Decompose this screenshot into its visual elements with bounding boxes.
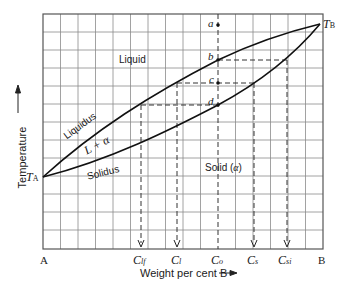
t-b-label: TB: [323, 18, 335, 30]
y-axis-arrow: [16, 85, 21, 113]
solidus-curve: [43, 24, 320, 177]
phase-diagram-figure: Temperature TA TB Liquid Liquidus L + α …: [0, 0, 345, 291]
composition-label-co: Co: [211, 254, 223, 266]
phase-diagram-plot: [0, 0, 345, 291]
liquid-region-label: Liquid: [119, 55, 146, 65]
composition-label-csi: Csi: [278, 254, 291, 266]
x-axis-right-label: B: [318, 255, 325, 266]
x-axis-left-label: A: [40, 255, 48, 266]
composition-label-cl: Cl: [171, 254, 181, 266]
composition-arrows: [138, 240, 290, 247]
point-b-label: b: [208, 51, 214, 62]
t-a-main: T: [26, 170, 33, 184]
composition-label-clf: Clf: [133, 254, 145, 266]
solid-close: ): [239, 162, 242, 173]
solid-text: Solid (: [205, 162, 233, 173]
grid-lines: [43, 14, 323, 249]
solid-region-label: Solid (α): [205, 163, 242, 173]
point-a-label: a: [208, 18, 214, 29]
t-a-label: TA: [26, 171, 38, 183]
composition-label-cs: Cs: [247, 254, 258, 266]
y-axis-label: Temperature: [17, 118, 28, 198]
point-d-label: d: [208, 96, 214, 107]
liquidus-curve: [43, 24, 320, 177]
t-b-main: T: [323, 17, 330, 31]
point-c-label: c: [209, 74, 214, 85]
t-a-sub: A: [33, 174, 39, 183]
t-b-sub: B: [330, 21, 335, 30]
x-axis-label: Weight per cent B: [140, 268, 227, 279]
tie-lines: [141, 14, 287, 249]
